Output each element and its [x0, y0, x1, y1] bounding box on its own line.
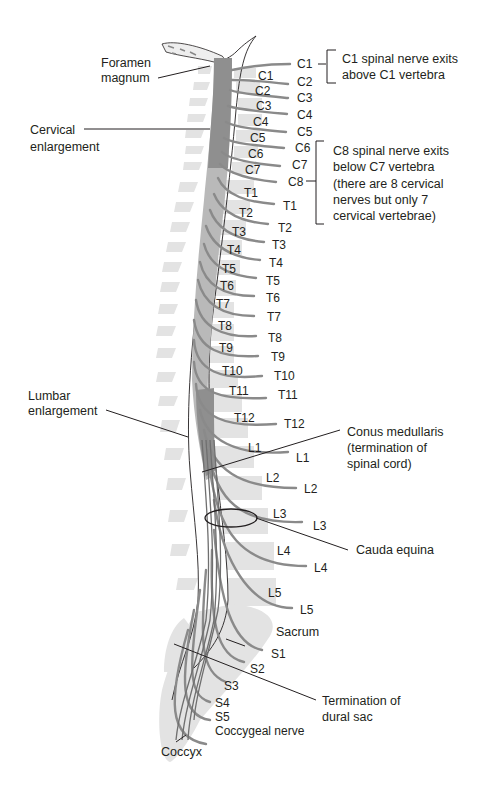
nerve-label-t11: T11 [278, 388, 298, 402]
nerve-label-c6: C6 [295, 141, 311, 155]
c8-note-line-5: cervical vertebrae) [333, 209, 436, 223]
nerve-label-c1: C1 [297, 57, 313, 71]
nerve-label-l1: L1 [296, 451, 310, 465]
nerve-label-t9: T9 [271, 350, 285, 364]
label-conus-medullaris-2: (termination of [347, 441, 427, 455]
nerve-label-c2: C2 [297, 75, 313, 89]
vertebra-label-t11: T11 [229, 384, 249, 398]
vertebra-label-c2: C2 [255, 84, 271, 98]
vertebra-label-l2: L2 [266, 471, 280, 485]
nerve-label-t10: T10 [274, 369, 295, 383]
vertebra-label-l5: L5 [268, 586, 282, 600]
nerve-label-s1: S1 [271, 647, 286, 661]
label-conus-medullaris-1: Conus medullaris [347, 425, 444, 439]
vertebra-label-t10: T10 [222, 364, 243, 378]
label-conus-medullaris-3: spinal cord) [347, 457, 412, 471]
nerve-label-t8: T8 [268, 331, 282, 345]
nerve-label-t3: T3 [272, 238, 286, 252]
c8-note-line-2: below C7 vertebra [333, 160, 434, 174]
nerve-label-l2: L2 [304, 482, 318, 496]
nerve-label-t12: T12 [284, 417, 305, 431]
vertebra-label-t5: T5 [222, 262, 236, 276]
nerve-label-c3: C3 [297, 91, 313, 105]
c1-note: C1 spinal nerve exits above C1 vertebra [342, 52, 458, 82]
nerve-label-c8: C8 [288, 175, 304, 189]
vertebra-label-c4: C4 [253, 115, 269, 129]
skull-base [162, 36, 256, 66]
vertebra-label-t12: T12 [234, 411, 255, 425]
nerve-label-c5: C5 [297, 125, 313, 139]
label-foramen-magnum-2: magnum [101, 71, 150, 85]
nerve-label-l3: L3 [313, 519, 327, 533]
label-cervical-enlargement-1: Cervical [30, 123, 75, 137]
vertebra-label-c3: C3 [256, 99, 272, 113]
vertebra-label-t8: T8 [218, 319, 232, 333]
nerve-label-t7: T7 [267, 310, 281, 324]
vertebra-label-t4: T4 [227, 243, 241, 257]
vertebra-label-t7: T7 [216, 297, 230, 311]
nerve-label-s2: S2 [250, 662, 265, 676]
label-dural-sac-1: Termination of [322, 694, 401, 708]
c8-note-line-1: C8 spinal nerve exits [333, 144, 449, 158]
spinal-cord-diagram: Foramen magnum Cervical enlargement Lumb… [0, 0, 482, 794]
label-lumbar-enlargement-2: enlargement [28, 404, 98, 418]
c8-note: C8 spinal nerve exits below C7 vertebra … [333, 144, 449, 223]
vertebra-label-t9: T9 [219, 341, 233, 355]
nerve-label-t2: T2 [278, 221, 292, 235]
nerve-label-l4: L4 [314, 561, 328, 575]
label-coccyx: Coccyx [161, 745, 203, 759]
nerve-label-s5: S5 [215, 710, 230, 724]
c8-note-line-4: nerves but only 7 [333, 193, 428, 207]
nerve-label-t1: T1 [283, 199, 297, 213]
nerve-label-c4: C4 [297, 108, 313, 122]
c8-note-line-3: (there are 8 cervical [333, 177, 443, 191]
nerve-label-s3: S3 [224, 679, 239, 693]
label-foramen-magnum-1: Foramen [101, 56, 151, 70]
label-sacrum: Sacrum [276, 625, 319, 639]
label-dural-sac-2: dural sac [322, 710, 373, 724]
vertebra-label-c6: C6 [248, 147, 264, 161]
vertebra-label-l3: L3 [273, 507, 287, 521]
c1-note-line-2: above C1 vertebra [342, 68, 445, 82]
c1-note-line-1: C1 spinal nerve exits [342, 52, 458, 66]
vertebra-label-c7: C7 [245, 163, 261, 177]
vertebra-label-l1: L1 [248, 441, 262, 455]
vertebra-label-l4: L4 [277, 544, 291, 558]
label-cervical-enlargement-2: enlargement [30, 140, 100, 154]
nerve-label-t5: T5 [266, 274, 280, 288]
vertebra-label-t3: T3 [232, 225, 246, 239]
nerve-label-coccygeal: Coccygeal nerve [215, 724, 305, 738]
label-cauda-equina: Cauda equina [356, 543, 434, 557]
label-lumbar-enlargement-1: Lumbar [28, 389, 70, 403]
nerve-label-s4: S4 [215, 696, 230, 710]
vertebra-label-c5: C5 [250, 131, 266, 145]
nerve-label-c7: C7 [292, 158, 308, 172]
vertebra-label-t1: T1 [244, 186, 258, 200]
vertebra-label-t6: T6 [220, 279, 234, 293]
nerve-label-l5: L5 [300, 603, 314, 617]
nerve-label-t6: T6 [266, 291, 280, 305]
nerve-label-t4: T4 [269, 256, 283, 270]
vertebra-label-t2: T2 [239, 206, 253, 220]
vertebra-label-c1: C1 [258, 69, 274, 83]
